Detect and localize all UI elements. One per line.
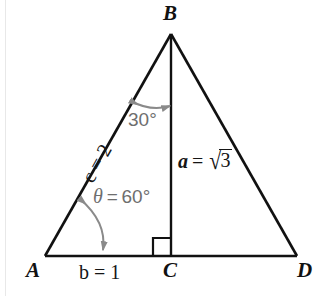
vertex-label-D: D [297,260,312,281]
theta-symbol: θ [93,185,103,207]
right-angle-mark-at-C [153,238,171,256]
sqrt-group: √3 [207,150,232,172]
angle-label-30: 30° [128,110,157,129]
radicand-value: 3 [219,149,232,170]
side-label-a-name: a [178,150,188,172]
vertex-label-A: A [26,260,40,281]
side-label-b-text: b = 1 [79,261,120,283]
vertex-label-B: B [163,3,177,24]
segment-BD [171,34,297,256]
angle-equals-sign: = [103,186,122,207]
side-label-a: a = √3 [178,150,232,172]
geometry-diagram-figure: A B C D c = 2 a = √3 b = 1 30° θ = 60° [0,0,324,296]
vertex-label-C: C [163,260,177,281]
segment-AB [45,34,171,256]
side-label-a-equals: = [188,150,207,172]
angle-label-theta-60: θ = 60° [93,186,150,206]
angle-value-60: 60° [122,186,151,207]
angle-arc-30-degrees [131,101,170,108]
triangle-diagram-svg [0,0,324,296]
side-label-b: b = 1 [79,262,120,282]
